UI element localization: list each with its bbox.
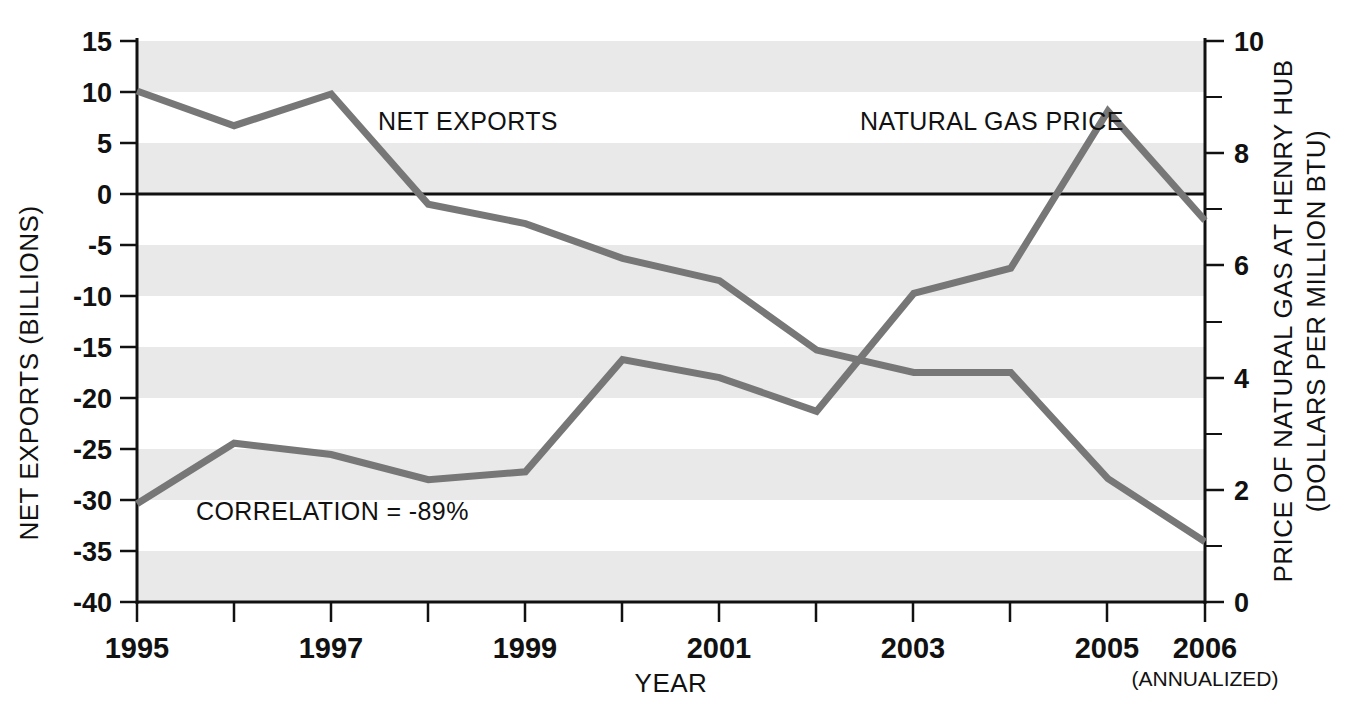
left-axis-tick-labels: 15 10 5 0 -5 -10 -15 -20 -25 -30 -35 -40 <box>73 27 112 618</box>
left-tick-label: -10 <box>73 282 112 312</box>
correlation-annotation: CORRELATION = -89% <box>196 497 469 525</box>
left-tick-label: -35 <box>73 537 112 567</box>
right-axis-tick-labels: 10 8 6 4 2 0 <box>1234 27 1264 618</box>
x-tick-label: 1995 <box>105 632 170 664</box>
right-tick-label: 8 <box>1234 139 1249 169</box>
series-label-natural-gas-price: NATURAL GAS PRICE <box>860 107 1124 135</box>
x-tick-label-final: 2006 <box>1173 632 1238 664</box>
dual-axis-line-chart: 15 10 5 0 -5 -10 -15 -20 -25 -30 -35 -40 <box>0 0 1350 704</box>
right-axis-title-units: (DOLLARS PER MILLION BTU) <box>1301 130 1331 512</box>
x-tick-label: 1999 <box>493 632 558 664</box>
left-tick-label: -15 <box>73 333 112 363</box>
right-tick-label: 6 <box>1234 251 1249 281</box>
x-axis-note: (ANNUALIZED) <box>1131 667 1278 690</box>
x-axis <box>137 602 1205 622</box>
right-tick-label: 2 <box>1234 476 1249 506</box>
x-tick-label: 2001 <box>687 632 752 664</box>
left-tick-label: 5 <box>97 129 112 159</box>
left-axis <box>120 38 137 604</box>
left-tick-label: -25 <box>73 435 112 465</box>
left-tick-label: -30 <box>73 486 112 516</box>
series-label-net-exports: NET EXPORTS <box>378 107 558 135</box>
right-tick-label: 0 <box>1234 588 1249 618</box>
x-tick-label: 2005 <box>1075 632 1140 664</box>
left-tick-label: -40 <box>73 588 112 618</box>
x-tick-label: 2003 <box>881 632 946 664</box>
left-tick-label: -20 <box>73 384 112 414</box>
right-axis-title: PRICE OF NATURAL GAS AT HENRY HUB <box>1268 59 1298 582</box>
x-tick-label: 1997 <box>299 632 364 664</box>
right-axis <box>1205 38 1224 604</box>
right-tick-label: 4 <box>1234 364 1249 394</box>
left-tick-label: 0 <box>97 180 112 210</box>
left-tick-label: 10 <box>82 78 112 108</box>
left-tick-label: 15 <box>82 27 112 57</box>
right-tick-label: 10 <box>1234 27 1264 57</box>
x-axis-title: YEAR <box>635 668 708 698</box>
left-tick-label: -5 <box>88 231 112 261</box>
left-axis-title: NET EXPORTS (BILLIONS) <box>14 205 44 540</box>
chart-container: 15 10 5 0 -5 -10 -15 -20 -25 -30 -35 -40 <box>0 0 1350 704</box>
